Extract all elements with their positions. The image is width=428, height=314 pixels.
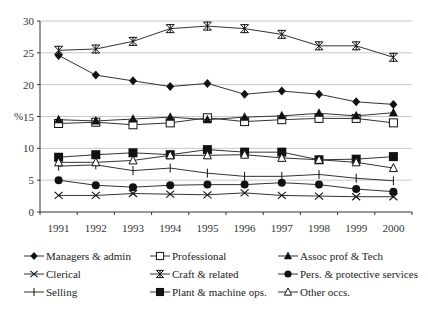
legend-label: Pers. & protective services (300, 268, 418, 280)
legend-item-pers-protective: Pers. & protective services (278, 266, 418, 282)
series-selling (59, 160, 394, 185)
legend-item-plant-machine: Plant & machine ops. (150, 284, 267, 300)
filled-square-marker-icon (150, 286, 170, 298)
asterisk-marker-icon (150, 268, 170, 280)
diamond-marker-icon (24, 250, 44, 262)
x-tick-label: 1999 (345, 222, 368, 234)
legend-label: Professional (172, 250, 226, 262)
y-axis-ticks: 051015202530 (23, 15, 35, 218)
x-tick-label: 2000 (382, 222, 405, 234)
legend-label: Managers & admin (46, 250, 131, 262)
x-tick-label: 1991 (48, 222, 70, 234)
line-chart: 051015202530 199119921993199419951996199… (0, 0, 428, 244)
legend-item-selling: Selling (24, 284, 77, 300)
legend-label: Assoc prof & Tech (300, 250, 383, 262)
legend-label: Other occs. (300, 286, 350, 298)
x-tick-label: 1996 (234, 222, 257, 234)
x-tick-label: 1994 (159, 222, 182, 234)
y-tick-label: 25 (23, 47, 35, 59)
open-triangle-marker-icon (278, 286, 298, 298)
x-tick-label: 1997 (271, 222, 294, 234)
y-tick-label: 5 (29, 174, 35, 186)
x-tick-label: 1993 (122, 222, 145, 234)
y-tick-label: 10 (23, 142, 35, 154)
series-other-occs (55, 150, 398, 171)
filled-circle-marker-icon (278, 268, 298, 280)
y-tick-label: 15 (23, 111, 35, 123)
data-series (54, 22, 398, 201)
legend-item-managers: Managers & admin (24, 248, 131, 264)
legend-label: Clerical (46, 268, 81, 280)
legend-item-craft: Craft & related (150, 266, 239, 282)
x-tick-label: 1998 (308, 222, 331, 234)
series-managers-admin (55, 51, 398, 109)
y-axis-label: % (14, 110, 23, 122)
x-tick-label: 1992 (85, 222, 107, 234)
open-square-marker-icon (150, 250, 170, 262)
series-craft-related (55, 22, 398, 62)
legend-item-other-occs: Other occs. (278, 284, 350, 300)
x-tick-label: 1995 (196, 222, 219, 234)
x-marker-icon (24, 268, 44, 280)
plus-marker-icon (24, 286, 44, 298)
series-pers-protective-services (55, 176, 398, 195)
y-tick-label: 0 (29, 206, 35, 218)
legend-label: Selling (46, 286, 77, 298)
legend-label: Craft & related (172, 268, 239, 280)
legend: Managers & admin Professional Assoc prof… (0, 244, 428, 304)
legend-item-professional: Professional (150, 248, 226, 264)
legend-label: Plant & machine ops. (172, 286, 267, 298)
legend-item-clerical: Clerical (24, 266, 81, 282)
y-tick-label: 20 (23, 79, 35, 91)
legend-item-assoc-prof: Assoc prof & Tech (278, 248, 383, 264)
filled-triangle-marker-icon (278, 250, 298, 262)
series-clerical (55, 189, 398, 200)
x-axis-ticks: 1991199219931994199519961997199819992000 (48, 222, 405, 234)
y-tick-label: 30 (23, 15, 35, 27)
